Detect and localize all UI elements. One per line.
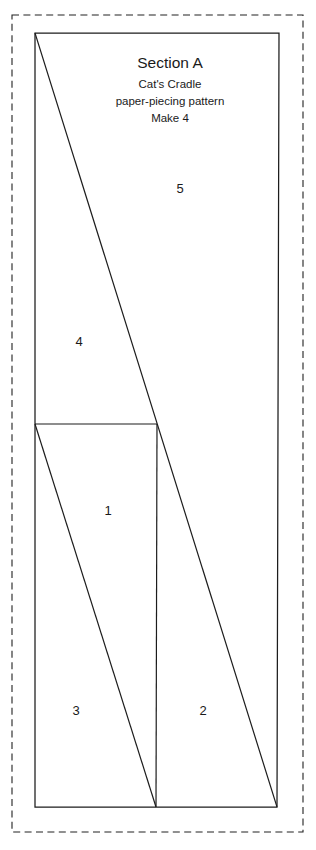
piece-number-5: 5 [176,181,183,196]
section-title: Section A [137,54,203,71]
piece-number-1: 1 [104,503,111,518]
piece-number-4: 4 [75,334,82,349]
piece-number-3: 3 [72,703,79,718]
pattern-name-label: Cat's Cradle [139,78,202,90]
make-count-label: Make 4 [151,112,189,124]
piece-number-2: 2 [199,703,206,718]
pattern-type-label: paper-piecing pattern [116,95,225,107]
pattern-drawing: Section A Cat's Cradle paper-piecing pat… [0,0,316,850]
paper-piecing-pattern-sheet: Section A Cat's Cradle paper-piecing pat… [0,0,316,850]
